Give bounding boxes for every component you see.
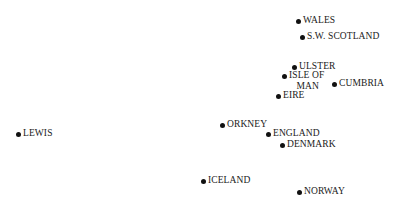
point-marker-icon bbox=[292, 65, 297, 70]
point-marker-icon bbox=[201, 179, 206, 184]
point-marker-icon bbox=[266, 132, 271, 137]
point-marker-icon bbox=[16, 132, 21, 137]
point-label: CUMBRIA bbox=[339, 78, 384, 89]
point-label: ISLE OF MAN bbox=[289, 70, 324, 92]
point-label: LEWIS bbox=[23, 128, 53, 139]
point-label: EIRE bbox=[283, 90, 305, 101]
point-marker-icon bbox=[296, 19, 301, 24]
scatter-plot: WALESS.W. SCOTLANDULSTERISLE OF MANCUMBR… bbox=[0, 0, 398, 208]
point-label: ORKNEY bbox=[227, 119, 267, 130]
point-marker-icon bbox=[300, 35, 305, 40]
point-label: S.W. SCOTLAND bbox=[307, 31, 379, 42]
point-label: NORWAY bbox=[304, 186, 345, 197]
point-marker-icon bbox=[280, 143, 285, 148]
point-marker-icon bbox=[297, 190, 302, 195]
point-label: ENGLAND bbox=[273, 128, 320, 139]
point-label: ICELAND bbox=[208, 175, 250, 186]
point-marker-icon bbox=[220, 123, 225, 128]
point-marker-icon bbox=[332, 82, 337, 87]
point-label: WALES bbox=[303, 15, 335, 26]
point-marker-icon bbox=[282, 74, 287, 79]
point-marker-icon bbox=[276, 94, 281, 99]
point-label: DENMARK bbox=[287, 139, 336, 150]
